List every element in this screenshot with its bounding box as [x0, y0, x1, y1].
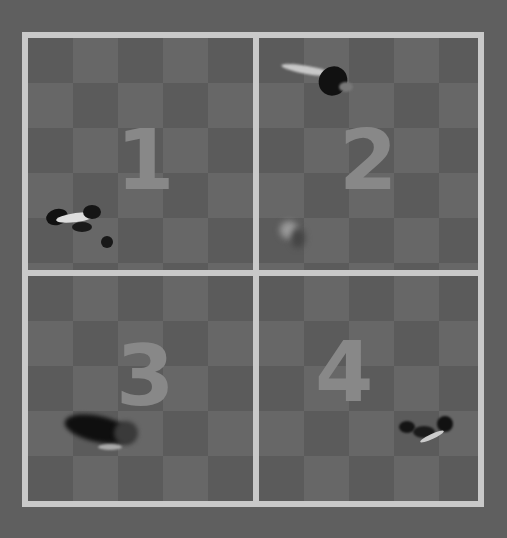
quadrant-3: 3 [28, 276, 253, 501]
quadrant-number: 3 [116, 334, 174, 418]
quadrant-1: 1 [28, 38, 253, 270]
quadrant-2: 2 [259, 38, 478, 270]
quadrant-number: 2 [339, 118, 397, 202]
quadrant-number: 4 [315, 330, 373, 414]
quadrant-number: 1 [116, 118, 174, 202]
arena-frame: 1 2 3 4 [22, 32, 484, 507]
quadrant-4: 4 [259, 276, 478, 501]
